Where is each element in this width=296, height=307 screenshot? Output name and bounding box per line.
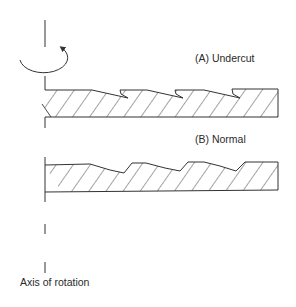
diagram-svg [0,0,296,307]
diagram-canvas: (A) Undercut (B) Normal Axis of rotation [0,0,296,307]
profile-b-normal [45,162,278,192]
normal-label: (B) Normal [195,134,246,145]
undercut-label: (A) Undercut [195,53,255,64]
rotation-arrow-icon [20,48,68,73]
profile-a-undercut [42,89,278,117]
axis-of-rotation-label: Axis of rotation [20,277,89,288]
